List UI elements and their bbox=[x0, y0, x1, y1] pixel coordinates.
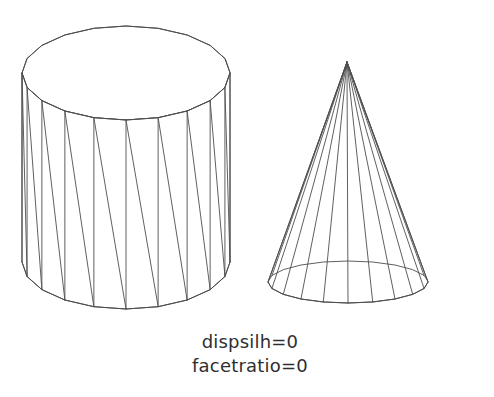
caption-facetratio: facetratio=0 bbox=[192, 355, 308, 376]
caption-dispsilh: dispsilh=0 bbox=[202, 331, 299, 352]
faceted-cylinder bbox=[22, 26, 230, 309]
figure-canvas: dispsilh=0 facetratio=0 bbox=[0, 0, 494, 397]
wireframe-figure: dispsilh=0 facetratio=0 bbox=[0, 0, 494, 397]
faceted-cone bbox=[268, 62, 428, 303]
